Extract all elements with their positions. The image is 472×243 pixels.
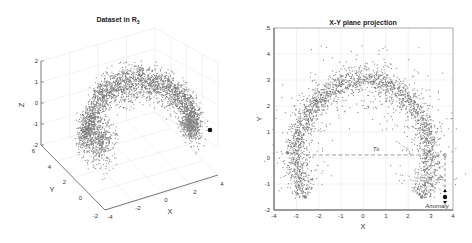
x-tick: 2 (193, 189, 197, 195)
y-tick: -2 (93, 213, 99, 219)
ticks-3d (41, 61, 44, 145)
x-tick: -4 (107, 214, 113, 220)
z-tick: 2 (35, 58, 39, 64)
y-tick: 2 (267, 103, 271, 109)
figure: Dataset in R3 2 1 0 -1 -2 Z 6 4 2 0 -2 Y… (0, 0, 472, 243)
x-tick: 0 (361, 213, 365, 219)
x-tick: -3 (293, 213, 299, 219)
x-tick: -1 (338, 213, 344, 219)
y-tick: -2 (265, 207, 271, 213)
z-tick: 1 (35, 79, 39, 85)
x-tick: 2 (406, 213, 410, 219)
plot-2d-title: X-Y plane projection (329, 19, 397, 27)
y-tick: 4 (48, 164, 52, 170)
y-tick: -1 (265, 181, 271, 187)
y-axis-label: Y (255, 116, 264, 121)
z-axis-label: Z (17, 102, 26, 107)
x-tick: -2 (135, 205, 141, 211)
plot-3d-title: Dataset in R3 (96, 16, 139, 25)
anomaly-point-3d (208, 128, 213, 133)
y-tick: 2 (63, 179, 67, 185)
y-tick: 1 (267, 129, 271, 135)
x-tick: 0 (164, 197, 168, 203)
plot-3d: Dataset in R3 2 1 0 -1 -2 Z 6 4 2 0 -2 Y… (17, 16, 224, 220)
tx-label: Tx (373, 146, 381, 152)
x-tick: 1 (384, 213, 388, 219)
z-tick: 0 (35, 100, 39, 106)
y-tick: 4 (267, 51, 271, 57)
y-tick: 0 (79, 195, 83, 201)
z-tick: -1 (33, 121, 39, 127)
y-axis-label-3d: Y (49, 185, 54, 194)
plot-xy-projection: Tx Ty Anomaly X-Y plane projection 5 4 3… (255, 19, 466, 231)
x-tick: -2 (316, 213, 322, 219)
x-axis-label-3d: X (167, 207, 172, 216)
y-tick: 0 (267, 155, 271, 161)
anomaly-label: Anomaly (424, 203, 449, 209)
x-axis-label: X (360, 222, 365, 231)
y-tick: 3 (267, 77, 271, 83)
y-tick: 6 (32, 148, 36, 154)
y-tick: 5 (267, 25, 271, 31)
x-tick: -4 (271, 213, 277, 219)
x-tick: 3 (429, 213, 433, 219)
x-tick: 4 (220, 181, 224, 187)
x-tick: 4 (451, 213, 455, 219)
anomaly-point-2d (443, 195, 447, 199)
